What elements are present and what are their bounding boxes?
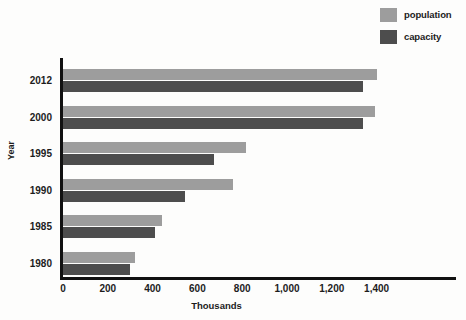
bar-capacity-2012 — [63, 81, 363, 92]
bar-population-2000 — [63, 106, 375, 117]
plot-area — [63, 58, 399, 278]
bar-capacity-1990 — [63, 191, 185, 202]
bar-population-1990 — [63, 179, 233, 190]
bar-capacity-1980 — [63, 264, 130, 275]
legend-swatch-capacity — [380, 30, 397, 44]
chart-legend: population capacity — [380, 8, 452, 44]
bar-population-1995 — [63, 142, 246, 153]
bar-population-1985 — [63, 215, 162, 226]
x-axis-title-text: Thousands — [191, 300, 242, 311]
x-tick-label-800: 800 — [234, 283, 251, 294]
legend-label-capacity: capacity — [404, 32, 441, 42]
x-tick-label-400: 400 — [144, 283, 161, 294]
bar-chart: population capacity Year 201220001995199… — [0, 0, 466, 320]
y-tick-label-2012: 2012 — [30, 75, 52, 86]
bars-layer — [63, 58, 399, 277]
bar-capacity-1995 — [63, 154, 214, 165]
x-tick-label-0: 0 — [60, 283, 66, 294]
bar-capacity-2000 — [63, 118, 363, 129]
x-axis-tick-labels: 02004006008001,0001,2001,400 — [63, 283, 463, 299]
legend-item-population: population — [380, 8, 452, 22]
y-axis-tick-labels: 201220001995199019851980 — [0, 58, 60, 278]
y-tick-label-1995: 1995 — [30, 148, 52, 159]
y-tick-label-1985: 1985 — [30, 221, 52, 232]
x-tick-label-1000: 1,000 — [274, 283, 299, 294]
x-axis-title: Thousands — [0, 300, 466, 311]
x-tick-label-600: 600 — [189, 283, 206, 294]
y-tick-label-2000: 2000 — [30, 111, 52, 122]
legend-item-capacity: capacity — [380, 30, 452, 44]
x-tick-label-1400: 1,400 — [364, 283, 389, 294]
legend-label-population: population — [404, 10, 452, 20]
legend-swatch-population — [380, 8, 397, 22]
y-tick-label-1990: 1990 — [30, 184, 52, 195]
bar-capacity-1985 — [63, 227, 155, 238]
bar-population-1980 — [63, 252, 135, 263]
x-tick-label-1200: 1,200 — [319, 283, 344, 294]
x-tick-label-200: 200 — [99, 283, 116, 294]
bar-population-2012 — [63, 69, 377, 80]
x-axis-line — [60, 277, 456, 280]
y-tick-label-1980: 1980 — [30, 257, 52, 268]
